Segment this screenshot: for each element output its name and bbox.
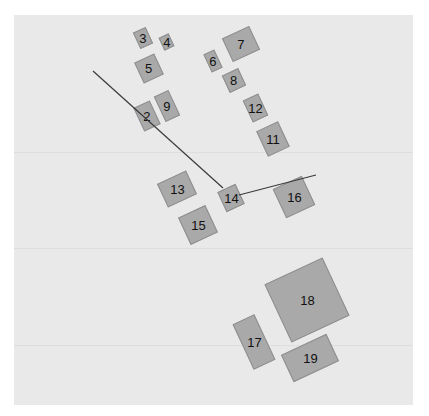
path-lines-layer xyxy=(0,0,429,416)
path-b-line xyxy=(239,175,316,195)
path-a-line xyxy=(93,71,223,188)
